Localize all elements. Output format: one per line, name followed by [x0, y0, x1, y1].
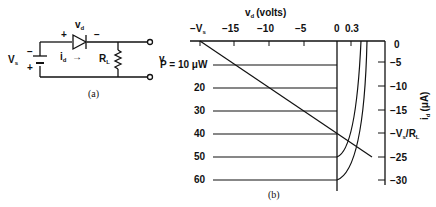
- y-tick-25: −25: [390, 152, 407, 163]
- y-tick-5: −5: [390, 57, 402, 68]
- power-label-30: 30: [194, 105, 206, 116]
- y-tick-15: −15: [390, 105, 407, 116]
- power-label-20: 20: [194, 82, 206, 93]
- y-tick-vs-r: −Vs/RL: [390, 128, 420, 140]
- source-label: Vs: [8, 54, 19, 66]
- power-label-40: 40: [194, 128, 206, 139]
- circuit-diagram: [33, 35, 153, 80]
- power-label-10: P = 10 μW: [160, 59, 208, 70]
- source-plus: +: [27, 62, 33, 73]
- y-tick-0: 0: [394, 39, 400, 50]
- x-tick-0.3: 0.3: [345, 23, 359, 34]
- curve-60: [337, 41, 367, 180]
- diode-icon: [73, 35, 86, 49]
- y-axis-title: id(μA): [419, 92, 431, 120]
- current-label: id: [60, 51, 67, 63]
- terminal-top: [148, 40, 153, 45]
- source-minus: −: [27, 46, 33, 57]
- current-arrow-icon: →: [72, 51, 82, 62]
- diode-plus: +: [61, 29, 67, 40]
- figure: vd + − Vs − + id → RL v (a): [0, 0, 436, 207]
- power-label-60: 60: [194, 174, 206, 185]
- power-curves: [213, 65, 337, 180]
- y-tick-10: −10: [390, 81, 407, 92]
- x-tick-15: −15: [222, 23, 239, 34]
- x-tick-vs: −Vs: [190, 23, 207, 35]
- terminal-bottom: [148, 75, 153, 80]
- curve-50: [337, 41, 361, 157]
- resistor-label: RL: [99, 53, 110, 65]
- circuit-caption: (a): [88, 88, 99, 100]
- graph-caption: (b): [268, 189, 280, 201]
- x-tick-0: 0: [334, 23, 340, 34]
- y-tick-30: −30: [390, 175, 407, 186]
- x-axis-title: vd(volts): [245, 7, 286, 19]
- graph-labels: vd(volts) −Vs −15 −10 −5 0 0.3 0 −5 −10 …: [160, 7, 431, 201]
- circuit-labels: vd + − Vs − + id → RL v (a): [8, 19, 165, 100]
- graph: [190, 41, 385, 191]
- load-line: [200, 41, 372, 157]
- power-label-50: 50: [194, 151, 206, 162]
- diode-minus: −: [94, 29, 100, 40]
- resistor-icon: [115, 50, 121, 69]
- diode-voltage-label: vd: [75, 19, 85, 31]
- x-tick-10: −10: [257, 23, 274, 34]
- x-tick-5: −5: [295, 23, 307, 34]
